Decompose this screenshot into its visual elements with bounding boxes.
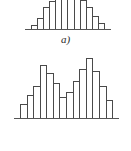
- histogram-figure: a) d): [0, 0, 131, 151]
- baseline-axis-d: [14, 118, 119, 119]
- bar-group-d: [20, 54, 113, 118]
- baseline-axis-a: [25, 29, 111, 30]
- histogram-bar: [106, 100, 114, 118]
- plot-area-a: [0, 0, 131, 30]
- histogram-panel-d: d): [0, 55, 131, 151]
- plot-area-d: [0, 55, 131, 119]
- panel-caption-a: a): [0, 33, 131, 45]
- histogram-panel-a: a): [0, 0, 131, 50]
- bar-group-a: [31, 0, 105, 29]
